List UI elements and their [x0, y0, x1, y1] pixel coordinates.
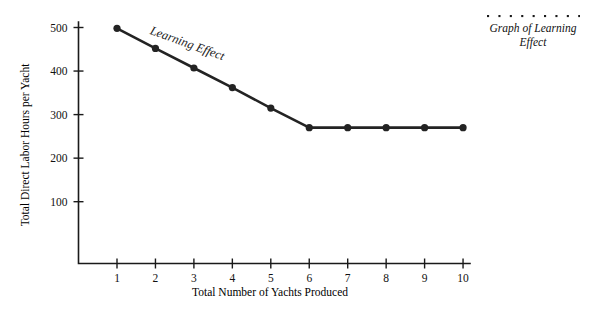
- x-tick-label: 7: [345, 272, 351, 284]
- caption-dotted-rule: [486, 13, 580, 20]
- caption-rule-dot: [521, 15, 523, 17]
- figure-caption: Graph of Learning Effect: [486, 13, 580, 49]
- caption-rule-dot: [578, 15, 580, 17]
- x-tick-label: 9: [422, 272, 428, 284]
- x-tick-label: 2: [153, 272, 159, 284]
- data-point: [459, 124, 466, 131]
- data-point: [421, 124, 428, 131]
- chart-axes: [79, 22, 471, 264]
- data-point: [306, 124, 313, 131]
- caption-rule-dot: [510, 15, 512, 17]
- y-tick-label: 300: [50, 109, 68, 121]
- x-axis-ticks: 12345678910: [114, 259, 469, 284]
- y-axis-title: Total Direct Labor Hours per Yacht: [19, 63, 32, 227]
- figure-caption-text: Graph of Learning Effect: [486, 22, 580, 49]
- x-tick-label: 6: [306, 272, 312, 284]
- data-point: [383, 124, 390, 131]
- learning-effect-annotation: Learning Effect: [147, 23, 227, 63]
- x-axis-title: Total Number of Yachts Produced: [192, 286, 348, 298]
- y-tick-label: 200: [50, 152, 68, 164]
- caption-rule-dot: [533, 15, 535, 17]
- x-tick-label: 8: [383, 272, 389, 284]
- x-tick-label: 3: [191, 272, 197, 284]
- y-tick-label: 100: [50, 196, 68, 208]
- data-point: [344, 124, 351, 131]
- data-point: [229, 84, 236, 91]
- caption-rule-dot: [555, 15, 557, 17]
- x-tick-label: 4: [229, 272, 235, 284]
- caption-rule-dot: [567, 15, 569, 17]
- learning-effect-figure: 100200300400500 12345678910 Total Number…: [0, 0, 590, 316]
- caption-rule-dot: [498, 15, 500, 17]
- y-tick-label: 500: [50, 22, 68, 34]
- caption-rule-dot: [487, 15, 489, 17]
- data-point: [190, 64, 197, 71]
- x-tick-label: 5: [268, 272, 274, 284]
- x-tick-label: 1: [114, 272, 120, 284]
- data-point: [152, 45, 159, 52]
- caption-rule-dot: [544, 15, 546, 17]
- y-tick-label: 400: [50, 65, 68, 77]
- x-tick-label: 10: [457, 272, 469, 284]
- data-point: [113, 25, 120, 32]
- data-point: [267, 104, 274, 111]
